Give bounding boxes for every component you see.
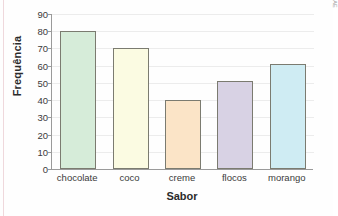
y-tick-label: 50 [26, 79, 48, 89]
bar-slot [157, 14, 209, 169]
y-tick-label: 90 [26, 10, 48, 20]
y-tick-mark [48, 169, 52, 170]
y-tick-label: 60 [26, 62, 48, 72]
bar-morango [270, 64, 306, 169]
bar-slot [209, 14, 261, 169]
page-edge-rule [3, 0, 4, 216]
bar-slot [262, 14, 314, 169]
x-axis-tick-labels: chocolatecococremeflocosmorango [51, 172, 313, 183]
x-tick-label-morango: morango [261, 172, 313, 183]
bar-slot [104, 14, 156, 169]
bar-creme [165, 100, 201, 169]
bar-slot [52, 14, 104, 169]
y-axis-title: Frequência [11, 16, 23, 116]
y-tick-label: 70 [26, 45, 48, 55]
bar-coco [113, 48, 149, 169]
y-axis-tick-labels: 0102030405060708090 [26, 14, 48, 170]
x-tick-label-creme: creme [156, 172, 208, 183]
x-tick-label-chocolate: chocolate [51, 172, 103, 183]
x-tick-label-coco: coco [103, 172, 155, 183]
illustration-credit: Ilustrações: DAE [332, 0, 338, 8]
x-tick-label-flocos: flocos [208, 172, 260, 183]
y-tick-label: 20 [26, 131, 48, 141]
y-tick-label: 80 [26, 27, 48, 37]
plot-area [51, 14, 313, 170]
bar-chocolate [60, 31, 96, 169]
y-tick-label: 30 [26, 114, 48, 124]
bar-flocos [217, 81, 253, 169]
y-tick-label: 0 [26, 165, 48, 175]
y-tick-label: 40 [26, 96, 48, 106]
x-axis-title: Sabor [51, 190, 313, 202]
y-tick-label: 10 [26, 148, 48, 158]
bar-series [52, 14, 314, 169]
